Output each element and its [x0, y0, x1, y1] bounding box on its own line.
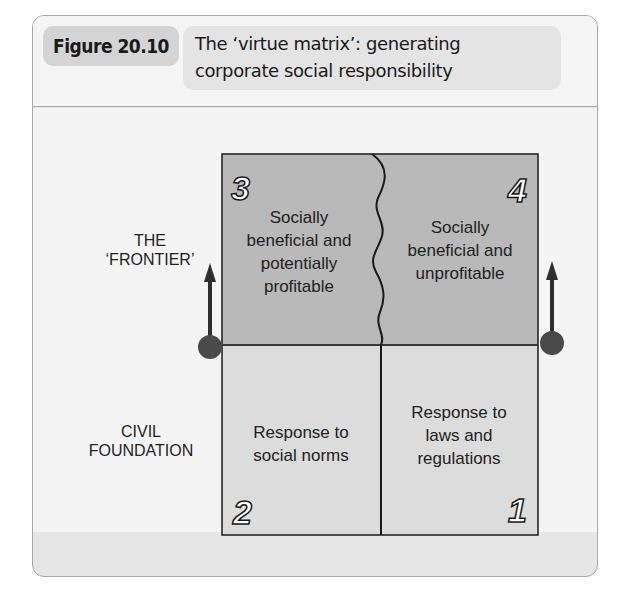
quadrant-text-line: unprofitable	[416, 264, 505, 283]
quadrant-4-number: 4	[507, 171, 527, 209]
quadrant-1-text: Response tolaws andregulations	[411, 403, 506, 468]
quadrant-text-line: regulations	[417, 449, 500, 468]
quadrant-text-line: Socially	[431, 218, 490, 237]
right-marker-dot	[540, 331, 564, 355]
quadrant-text-line: Socially	[270, 208, 329, 227]
quadrant-text-line: beneficial and	[247, 231, 352, 250]
quadrant-3-number: 3	[231, 169, 250, 207]
quadrant-text-line: Response to	[411, 403, 506, 422]
quadrant-2-number: 2	[232, 493, 252, 531]
quadrant-text-line: Response to	[253, 423, 348, 442]
quadrant-text-line: beneficial and	[408, 241, 513, 260]
left-marker-dot	[198, 335, 222, 359]
quadrant-text-line: social norms	[253, 446, 348, 465]
quadrant-text-line: potentially	[261, 254, 338, 273]
quadrant-text-line: laws and	[425, 426, 492, 445]
right-arrow-head-icon	[546, 261, 558, 280]
left-arrow-head-icon	[204, 263, 216, 282]
virtue-matrix: 3 4 2 1 Sociallybeneficial andpotentiall…	[0, 0, 635, 599]
quadrant-text-line: profitable	[264, 277, 334, 296]
quadrant-1-number: 1	[508, 491, 527, 529]
